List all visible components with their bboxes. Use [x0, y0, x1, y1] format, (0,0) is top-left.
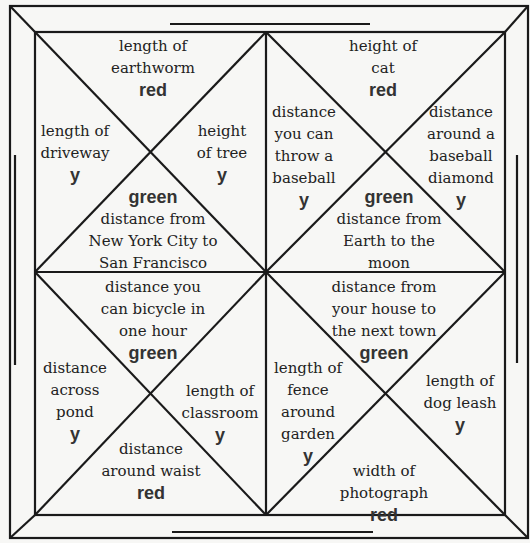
cell-text-line: San Francisco: [89, 252, 218, 274]
color-tag: green: [101, 342, 205, 364]
cell-tl-bottom: greendistance fromNew York City toSan Fr…: [89, 186, 218, 274]
cell-text-line: distance: [43, 357, 107, 379]
color-tag: green: [89, 186, 218, 208]
cell-text-line: moon: [337, 252, 442, 274]
cell-text-line: length of: [182, 380, 259, 402]
cell-br-bottom: width ofphotographred: [340, 460, 428, 526]
cell-text-line: classroom: [182, 402, 259, 424]
puzzle-frame: [0, 0, 530, 543]
cell-text-line: your house to: [332, 298, 437, 320]
cell-tr-left: distanceyou canthrow abasebally: [272, 101, 336, 211]
cell-tl-left: length ofdrivewayy: [40, 120, 109, 186]
cell-text-line: photograph: [340, 482, 428, 504]
cell-text-line: of tree: [197, 142, 247, 164]
cell-text-line: earthworm: [111, 57, 195, 79]
cell-text-line: cat: [349, 57, 417, 79]
color-tag: y: [40, 164, 109, 186]
cell-text-line: distance from: [332, 276, 437, 298]
cell-tl-top: length ofearthwormred: [111, 35, 195, 101]
cell-text-line: fence: [274, 379, 342, 401]
measurement-puzzle: length ofearthwormredlength ofdrivewayyh…: [0, 0, 530, 543]
cell-text-line: distance: [272, 101, 336, 123]
cell-text-line: around: [274, 401, 342, 423]
cell-text-line: throw a: [272, 145, 336, 167]
cell-text-line: length of: [274, 357, 342, 379]
cell-text-line: pond: [43, 401, 107, 423]
cell-text-line: Earth to the: [337, 230, 442, 252]
cell-text-line: distance from: [337, 208, 442, 230]
cell-text-line: distance you: [101, 276, 205, 298]
color-tag: y: [197, 164, 247, 186]
cell-text-line: length of: [424, 370, 497, 392]
cell-bl-right: length ofclassroomy: [182, 380, 259, 446]
cell-bl-bottom: distancearound waistred: [101, 438, 200, 504]
cell-text-line: garden: [274, 423, 342, 445]
color-tag: green: [337, 186, 442, 208]
cell-br-top: distance fromyour house tothe next towng…: [332, 276, 437, 364]
color-tag: red: [349, 79, 417, 101]
color-tag: green: [332, 342, 437, 364]
cell-text-line: distance from: [89, 208, 218, 230]
cell-text-line: width of: [340, 460, 428, 482]
cell-text-line: one hour: [101, 320, 205, 342]
cell-tr-top: height ofcatred: [349, 35, 417, 101]
cell-text-line: length of: [40, 120, 109, 142]
cell-tr-bottom: greendistance fromEarth to themoon: [337, 186, 442, 274]
cell-bl-left: distanceacrosspondy: [43, 357, 107, 445]
cell-text-line: driveway: [40, 142, 109, 164]
cell-tl-right: heightof treey: [197, 120, 247, 186]
color-tag: red: [340, 504, 428, 526]
cell-bl-top: distance youcan bicycle inone hourgreen: [101, 276, 205, 364]
cell-text-line: New York City to: [89, 230, 218, 252]
cell-text-line: dog leash: [424, 392, 497, 414]
cell-text-line: can bicycle in: [101, 298, 205, 320]
cell-br-left: length offencearoundgardeny: [274, 357, 342, 467]
color-tag: red: [111, 79, 195, 101]
cell-text-line: across: [43, 379, 107, 401]
cell-br-right: length ofdog leashy: [424, 370, 497, 436]
color-tag: y: [43, 423, 107, 445]
cell-text-line: height of: [349, 35, 417, 57]
cell-text-line: distance: [427, 101, 495, 123]
cell-text-line: the next town: [332, 320, 437, 342]
color-tag: y: [272, 189, 336, 211]
color-tag: red: [101, 482, 200, 504]
cell-text-line: height: [197, 120, 247, 142]
cell-text-line: baseball: [427, 145, 495, 167]
cell-text-line: distance: [101, 438, 200, 460]
cell-text-line: around a: [427, 123, 495, 145]
cell-text-line: you can: [272, 123, 336, 145]
cell-text-line: around waist: [101, 460, 200, 482]
color-tag: y: [424, 414, 497, 436]
color-tag: y: [274, 445, 342, 467]
cell-text-line: baseball: [272, 167, 336, 189]
cell-text-line: length of: [111, 35, 195, 57]
